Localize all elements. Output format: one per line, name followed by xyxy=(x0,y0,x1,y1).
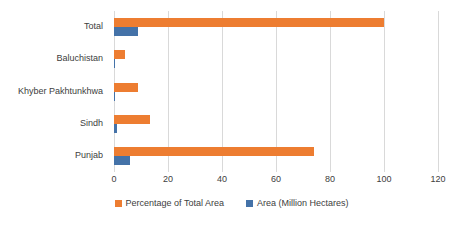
bar[interactable] xyxy=(114,18,384,27)
bar[interactable] xyxy=(114,27,138,36)
plot-area xyxy=(114,11,438,172)
bar-group xyxy=(114,108,438,140)
category-axis: Total Baluchistan Khyber Pakhtunkhwa Sin… xyxy=(0,11,110,172)
category-label-baluchistan: Baluchistan xyxy=(0,43,110,75)
value-axis-tick-label: 60 xyxy=(271,174,281,184)
bar-chart: Total Baluchistan Khyber Pakhtunkhwa Sin… xyxy=(0,0,463,225)
bar[interactable] xyxy=(114,92,115,101)
category-label-sindh: Sindh xyxy=(0,108,110,140)
bar-group xyxy=(114,75,438,107)
value-axis-tick-label: 80 xyxy=(325,174,335,184)
bar[interactable] xyxy=(114,115,150,124)
value-axis-tick-label: 40 xyxy=(217,174,227,184)
category-label-total: Total xyxy=(0,11,110,43)
bar[interactable] xyxy=(114,147,314,156)
bars-layer xyxy=(114,11,438,172)
gridline xyxy=(438,11,439,172)
chart-legend: Percentage of Total Area Area (Million H… xyxy=(0,198,463,208)
category-label-punjab: Punjab xyxy=(0,140,110,172)
value-axis: 020406080100120 xyxy=(114,172,438,188)
legend-label-percentage: Percentage of Total Area xyxy=(126,198,224,208)
value-axis-tick-label: 20 xyxy=(163,174,173,184)
value-axis-tick-label: 0 xyxy=(111,174,116,184)
bar[interactable] xyxy=(114,83,138,92)
bar[interactable] xyxy=(114,124,117,133)
value-axis-tick-label: 100 xyxy=(376,174,391,184)
legend-label-area: Area (Million Hectares) xyxy=(257,198,349,208)
legend-swatch-icon-area xyxy=(246,200,253,207)
bar[interactable] xyxy=(114,156,130,165)
bar[interactable] xyxy=(114,50,125,59)
bar[interactable] xyxy=(114,59,115,68)
legend-item-percentage-of-total-area: Percentage of Total Area xyxy=(115,198,224,208)
bar-group xyxy=(114,43,438,75)
legend-swatch-icon-percentage xyxy=(115,200,122,207)
value-axis-tick-label: 120 xyxy=(430,174,445,184)
legend-item-area-million-hectares: Area (Million Hectares) xyxy=(246,198,349,208)
category-label-khyber-pakhtunkhwa: Khyber Pakhtunkhwa xyxy=(0,75,110,107)
bar-group xyxy=(114,140,438,172)
bar-group xyxy=(114,11,438,43)
